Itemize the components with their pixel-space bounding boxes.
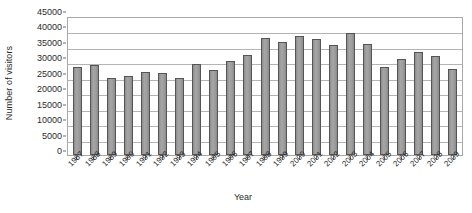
y-axis-tick-label: 40000 xyxy=(37,22,62,32)
x-axis-label-slot: 1990 xyxy=(119,160,136,194)
x-axis-label-slot: 1996 xyxy=(222,160,239,194)
y-axis-tick-label: 10000 xyxy=(37,115,62,125)
bar-slot xyxy=(154,18,171,155)
x-axis-label-slot: 2003 xyxy=(342,160,359,194)
y-axis-tick-label: 15000 xyxy=(37,100,62,110)
bar xyxy=(312,39,321,155)
bar xyxy=(192,64,201,155)
bar xyxy=(209,70,218,155)
bar xyxy=(295,36,304,155)
y-axis-tick-mark xyxy=(63,89,66,90)
bar-slot xyxy=(359,18,376,155)
y-axis-tick-label: 5000 xyxy=(42,131,62,141)
x-axis-label-slot: 1987 xyxy=(68,160,85,194)
bar-slot xyxy=(257,18,274,155)
x-axis-label-slot: 1991 xyxy=(137,160,154,194)
bar-slot xyxy=(393,18,410,155)
bar-slot xyxy=(444,18,461,155)
bar xyxy=(175,78,184,155)
x-axis-label-slot: 2001 xyxy=(308,160,325,194)
bar-slot xyxy=(291,18,308,155)
bar-slot xyxy=(222,18,239,155)
y-axis-tick-mark xyxy=(63,58,66,59)
x-axis-label-slot: 2004 xyxy=(359,160,376,194)
bar-slot xyxy=(103,18,120,155)
x-axis-label-slot: 2009 xyxy=(445,160,462,194)
x-axis-title-text: Year xyxy=(234,192,252,202)
bar xyxy=(124,76,133,155)
bar-slot xyxy=(239,18,256,155)
y-axis-tick-mark xyxy=(63,151,66,152)
x-axis-label-slot: 1994 xyxy=(188,160,205,194)
x-axis-label-slot: 1993 xyxy=(171,160,188,194)
bar xyxy=(363,44,372,155)
bar-slot xyxy=(308,18,325,155)
y-axis-tick-mark xyxy=(63,120,66,121)
y-axis-tick-label: 35000 xyxy=(37,38,62,48)
bar xyxy=(158,73,167,155)
bar xyxy=(397,59,406,155)
bar xyxy=(448,69,457,155)
bar-chart: Number of visitors 050001000015000200002… xyxy=(0,0,472,213)
x-axis-label-slot: 1997 xyxy=(239,160,256,194)
bar-slot xyxy=(188,18,205,155)
bar xyxy=(141,72,150,155)
x-axis-label-slot: 1992 xyxy=(154,160,171,194)
x-axis-label-slot: 1989 xyxy=(102,160,119,194)
bar-slot xyxy=(325,18,342,155)
bar-slot xyxy=(86,18,103,155)
bar xyxy=(243,55,252,155)
bar xyxy=(431,56,440,155)
x-axis-label-slot: 2006 xyxy=(393,160,410,194)
y-axis-tick-label: 30000 xyxy=(37,53,62,63)
y-axis-title-text: Number of visitors xyxy=(4,45,14,119)
x-axis-label-slot: 2005 xyxy=(376,160,393,194)
x-axis-label-slot: 1995 xyxy=(205,160,222,194)
y-axis-tick-label: 45000 xyxy=(37,7,62,17)
x-axis-title: Year xyxy=(0,192,472,202)
bar xyxy=(414,52,423,155)
bar-slot xyxy=(342,18,359,155)
bar xyxy=(90,65,99,155)
bar-slot xyxy=(274,18,291,155)
x-axis-label-slot: 1988 xyxy=(85,160,102,194)
y-axis-tick-mark xyxy=(63,12,66,13)
bar-slot xyxy=(205,18,222,155)
x-axis-label-slot: 2008 xyxy=(428,160,445,194)
x-axis-label-slot: 1998 xyxy=(256,160,273,194)
bar xyxy=(73,67,82,155)
bar-slot xyxy=(376,18,393,155)
y-axis-tick-mark xyxy=(63,104,66,105)
bar xyxy=(107,78,116,155)
x-axis-label-slot: 2007 xyxy=(411,160,428,194)
y-axis-tick-label: 20000 xyxy=(37,84,62,94)
bar xyxy=(278,42,287,155)
x-axis-tick-labels: 1987198819891990199119921993199419951996… xyxy=(67,160,463,194)
y-axis-title: Number of visitors xyxy=(0,0,18,165)
bar-series xyxy=(68,18,462,155)
x-axis-label-slot: 2002 xyxy=(325,160,342,194)
y-axis-tick-mark xyxy=(63,135,66,136)
y-axis-tick-labels: 0500010000150002000025000300003500040000… xyxy=(18,12,66,156)
bar xyxy=(329,45,338,155)
bar-slot xyxy=(137,18,154,155)
bar-slot xyxy=(120,18,137,155)
bar-slot xyxy=(69,18,86,155)
bar xyxy=(261,38,270,155)
y-axis-tick-mark xyxy=(63,73,66,74)
plot-area xyxy=(67,17,463,156)
bar xyxy=(226,61,235,155)
y-axis-tick-mark xyxy=(63,42,66,43)
y-axis-tick-mark xyxy=(63,27,66,28)
x-axis-label-slot: 2000 xyxy=(291,160,308,194)
bar-slot xyxy=(410,18,427,155)
x-axis-label-slot: 1999 xyxy=(274,160,291,194)
y-axis-tick-label: 0 xyxy=(57,146,62,156)
bar xyxy=(346,33,355,155)
bar-slot xyxy=(171,18,188,155)
bar-slot xyxy=(427,18,444,155)
y-axis-tick-label: 25000 xyxy=(37,69,62,79)
bar xyxy=(380,67,389,155)
